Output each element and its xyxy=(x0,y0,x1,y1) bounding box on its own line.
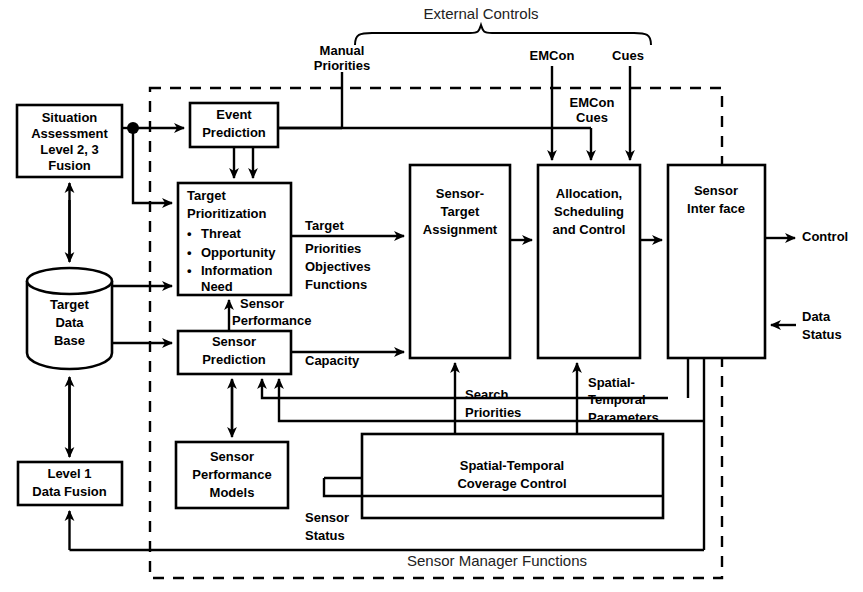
node-sensor-prediction-line1: Sensor xyxy=(212,334,256,349)
edge-label-sensor-performance-line1: Sensor xyxy=(240,296,284,311)
node-stcc-line1: Spatial-Temporal xyxy=(460,458,565,473)
node-situation-assessment-line3: Level 2, 3 xyxy=(40,142,99,157)
edge-label-search-priorities-line1: Search xyxy=(465,387,508,402)
edge-label-status: Status xyxy=(802,327,842,342)
node-sensor-interface-line1: Sensor xyxy=(694,183,738,198)
node-target-prioritization-line2: Prioritization xyxy=(187,206,267,221)
label-manual-priorities-line1: Manual xyxy=(320,43,365,58)
node-sensor-interface-line2: Inter face xyxy=(687,201,745,216)
bullet-dot-threat: • xyxy=(187,226,192,241)
edge-label-search-priorities-line2: Priorities xyxy=(465,405,521,420)
node-sensor-target-assignment-line1: Sensor- xyxy=(436,186,484,201)
node-allocation-line3: and Control xyxy=(553,222,626,237)
node-sensor-target-assignment-line3: Assignment xyxy=(423,222,498,237)
node-level1-data-fusion-line2: Data Fusion xyxy=(32,484,106,499)
label-emcon-internal: EMCon xyxy=(570,95,615,110)
sensor-manager-block-diagram: External Controls Manual Priorities EMCo… xyxy=(0,0,863,592)
node-target-prioritization-bullet-1: Threat xyxy=(201,226,241,241)
node-sensor-performance-models-line3: Models xyxy=(210,485,255,500)
node-target-prioritization-bullet-3-cont: Need xyxy=(201,279,233,294)
edge-label-st-parameters-line3: Parameters xyxy=(588,410,659,425)
node-allocation-line2: Scheduling xyxy=(554,204,624,219)
node-situation-assessment-line2: Assessment xyxy=(31,126,108,141)
bullet-dot-information: • xyxy=(187,263,192,278)
external-controls-brace xyxy=(355,25,651,45)
node-target-prioritization-line1: Target xyxy=(187,188,226,203)
node-allocation-line1: Allocation, xyxy=(556,186,622,201)
label-emcon: EMCon xyxy=(530,48,575,63)
label-cues: Cues xyxy=(612,48,644,63)
node-target-prioritization-bullet-3: Information xyxy=(201,263,273,278)
edge-label-functions: Functions xyxy=(305,277,367,292)
node-sensor-performance-models-line1: Sensor xyxy=(210,449,254,464)
node-target-data-base-top xyxy=(27,268,112,294)
bullet-dot-opportunity: • xyxy=(187,245,192,260)
node-target-data-base-line2: Data xyxy=(55,315,84,330)
node-event-prediction-line1: Event xyxy=(216,107,252,122)
node-sensor-performance-models-line2: Performance xyxy=(192,467,271,482)
label-manual-priorities-line2: Priorities xyxy=(314,58,370,73)
edge-label-sensor-status-line1: Sensor xyxy=(305,510,349,525)
edge-label-control: Control xyxy=(802,229,848,244)
node-sensor-target-assignment-line2: Target xyxy=(441,204,480,219)
label-cues-internal: Cues xyxy=(576,110,608,125)
wire-sa-to-target-prioritization xyxy=(133,128,172,203)
node-situation-assessment-line4: Fusion xyxy=(48,158,91,173)
diagram-canvas: External Controls Manual Priorities EMCo… xyxy=(0,0,863,592)
node-event-prediction-line2: Prediction xyxy=(202,125,266,140)
edge-label-st-parameters-line1: Spatial- xyxy=(588,375,635,390)
edge-label-priorities: Priorities xyxy=(305,241,361,256)
edge-label-st-parameters-line2: Temporal xyxy=(588,392,646,407)
edge-label-sensor-performance-line2: Performance xyxy=(232,313,311,328)
edge-label-objectives: Objectives xyxy=(305,259,371,274)
node-sensor-prediction-line2: Prediction xyxy=(202,352,266,367)
node-target-data-base-line1: Target xyxy=(50,297,89,312)
edge-label-data: Data xyxy=(802,309,831,324)
edge-label-target: Target xyxy=(305,218,344,233)
edge-label-capacity: Capacity xyxy=(305,353,360,368)
node-stcc-line2: Coverage Control xyxy=(457,476,566,491)
node-situation-assessment-line1: Situation xyxy=(42,110,98,125)
node-level1-data-fusion-line1: Level 1 xyxy=(47,466,91,481)
external-controls-title: External Controls xyxy=(423,5,538,22)
node-target-prioritization-bullet-2: Opportunity xyxy=(201,245,276,260)
edge-label-sensor-status-line2: Status xyxy=(305,528,345,543)
sensor-manager-functions-label: Sensor Manager Functions xyxy=(407,552,587,569)
node-target-data-base-line3: Base xyxy=(54,333,85,348)
